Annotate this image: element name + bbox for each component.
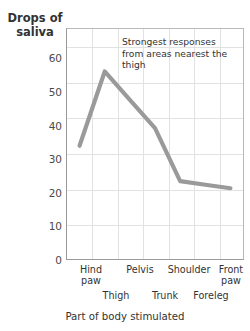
x-tick-line-1: Pelvis	[115, 264, 165, 275]
y-tick-label: 30	[32, 153, 62, 165]
x-tick-label-trunk: Trunk	[140, 290, 190, 301]
y-tick-label: 20	[32, 187, 62, 199]
x-axis-title: Part of body stimulated	[0, 311, 250, 322]
x-tick-label-front-paw: Front paw	[206, 264, 250, 286]
x-tick-line-2: paw	[66, 275, 116, 286]
x-tick-line-1: Foreleg	[186, 290, 236, 301]
x-tick-label-hind-paw: Hind paw	[66, 264, 116, 286]
x-tick-line-1: Hind	[66, 264, 116, 275]
x-tick-label-thigh: Thigh	[91, 290, 141, 301]
x-tick-line-1: Trunk	[140, 290, 190, 301]
y-tick-label: 40	[32, 120, 62, 132]
x-tick-line-2: paw	[206, 275, 250, 286]
y-tick-label: 0	[32, 254, 62, 266]
x-tick-line-1: Thigh	[91, 290, 141, 301]
annotation-line-1: Strongest responses	[122, 36, 216, 47]
y-tick-label: 10	[32, 220, 62, 232]
y-tick-label: 60	[32, 52, 62, 64]
annotation-line-2: from areas nearest	[122, 48, 209, 59]
x-tick-line-1: Front	[206, 264, 250, 275]
x-tick-label-foreleg: Foreleg	[186, 290, 236, 301]
x-tick-label-pelvis: Pelvis	[115, 264, 165, 275]
y-axis-tick-labels: 0 10 20 30 40 50 60	[28, 0, 62, 331]
chart-container: Drops of saliva 0 10 20 30 40 50 60 Stro…	[0, 0, 250, 331]
chart-annotation: Strongest responses from areas nearest t…	[122, 36, 234, 71]
y-tick-label: 50	[32, 86, 62, 98]
